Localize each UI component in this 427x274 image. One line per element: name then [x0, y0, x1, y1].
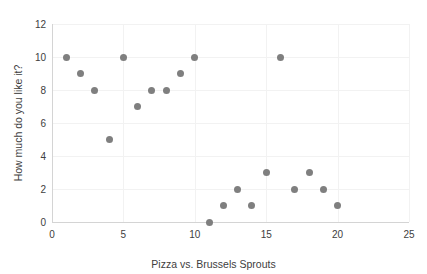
gridline-vertical: [266, 24, 267, 222]
data-point: [77, 70, 84, 77]
y-axis-tick-label: 2: [40, 184, 46, 195]
data-point: [291, 186, 298, 193]
data-point: [177, 70, 184, 77]
y-axis-tick-label: 10: [35, 52, 46, 63]
data-point: [220, 202, 227, 209]
x-axis-tick-label: 0: [49, 229, 55, 240]
gridline-horizontal: [52, 123, 409, 124]
data-point: [306, 169, 313, 176]
y-axis-title: How much do you like it?: [12, 65, 24, 182]
x-axis-tick-label: 5: [121, 229, 127, 240]
data-point: [163, 87, 170, 94]
gridline-horizontal: [52, 156, 409, 157]
data-point: [234, 186, 241, 193]
data-point: [148, 87, 155, 94]
y-axis-tick-label: 8: [40, 85, 46, 96]
gridline-horizontal: [52, 189, 409, 190]
data-point: [248, 202, 255, 209]
data-point: [63, 54, 70, 61]
x-axis-tick-label: 15: [261, 229, 272, 240]
data-point: [120, 54, 127, 61]
data-point: [134, 103, 141, 110]
plot-area: [52, 24, 409, 222]
data-point: [191, 54, 198, 61]
x-axis-tick-label: 20: [332, 229, 343, 240]
gridline-horizontal: [52, 57, 409, 58]
x-axis-tick-label: 25: [403, 229, 414, 240]
y-axis-line: [52, 24, 53, 222]
gridline-vertical: [338, 24, 339, 222]
y-axis-tick-label: 0: [40, 217, 46, 228]
x-axis-line: [52, 222, 409, 223]
gridline-horizontal: [52, 90, 409, 91]
data-point: [320, 186, 327, 193]
data-point: [277, 54, 284, 61]
data-point: [106, 136, 113, 143]
y-axis-tick-label: 12: [35, 19, 46, 30]
gridline-horizontal: [52, 24, 409, 25]
data-point: [334, 202, 341, 209]
data-point: [206, 219, 213, 226]
data-point: [91, 87, 98, 94]
scatter-chart: 0246810120510152025 Pizza vs. Brussels S…: [0, 0, 427, 274]
x-axis-title: Pizza vs. Brussels Sprouts: [0, 258, 427, 270]
y-axis-tick-label: 4: [40, 151, 46, 162]
gridline-vertical: [409, 24, 410, 222]
y-axis-tick-label: 6: [40, 118, 46, 129]
x-axis-tick-label: 10: [189, 229, 200, 240]
data-point: [263, 169, 270, 176]
